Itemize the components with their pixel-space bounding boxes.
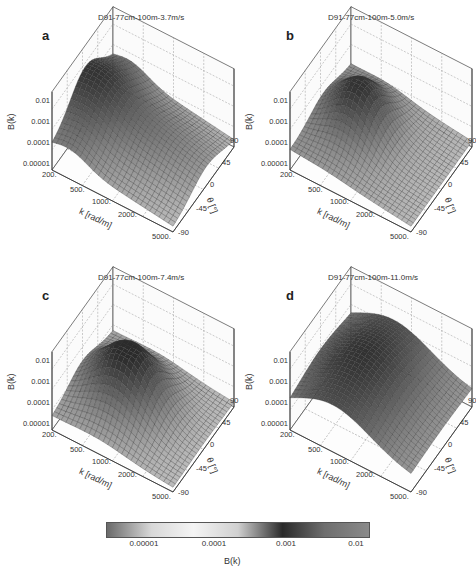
x-tick: 1000. (330, 457, 349, 466)
surface-plot (238, 0, 476, 260)
x-tick: 200. (280, 170, 295, 179)
y-tick: 45 (460, 418, 468, 427)
z-tick: 0.0001 (265, 138, 288, 147)
z-axis-label: B(k) (244, 374, 254, 391)
x-tick: 500. (70, 445, 85, 454)
x-tick: 2000. (118, 470, 137, 479)
z-tick: 0.001 (269, 117, 288, 126)
x-tick: 5000. (390, 232, 409, 241)
z-axis-label: B(k) (6, 114, 16, 131)
z-tick: 0.0001 (27, 398, 50, 407)
x-tick: 200. (42, 430, 57, 439)
x-tick: 500. (70, 185, 85, 194)
y-tick: 0 (448, 180, 452, 189)
z-tick: 0.001 (31, 117, 50, 126)
surface-plot (0, 260, 238, 520)
colorbar: 0.00001 0.0001 0.001 0.01 B(k) (106, 522, 372, 572)
z-tick: 0.001 (31, 377, 50, 386)
colorbar-label: B(k) (224, 556, 241, 566)
x-tick: 1000. (330, 197, 349, 206)
colorbar-tick: 0.0001 (202, 539, 226, 548)
x-tick: 200. (280, 430, 295, 439)
panel-label: d (286, 288, 294, 303)
y-tick: 0 (210, 440, 214, 449)
z-axis-label: B(k) (6, 374, 16, 391)
z-tick: 0.00001 (261, 419, 288, 428)
y-tick: 90 (468, 136, 476, 145)
y-tick: -90 (178, 228, 189, 237)
y-tick: 45 (222, 158, 230, 167)
panel-c: D91-77cm-100m-7.4m/sc0.010.0010.00010.00… (0, 260, 238, 520)
x-tick: 200. (42, 170, 57, 179)
x-tick: 1000. (92, 457, 111, 466)
y-tick: -45 (434, 464, 445, 473)
y-tick: 45 (222, 418, 230, 427)
panel-title: D91-77cm-100m-7.4m/s (98, 273, 184, 282)
colorbar-tick: 0.001 (276, 539, 296, 548)
x-tick: 500. (308, 185, 323, 194)
panel-label: c (42, 288, 49, 303)
colorbar-tick: 0.00001 (130, 539, 159, 548)
panel-label: a (42, 28, 49, 43)
colorbar-tick: 0.01 (348, 539, 364, 548)
z-tick: 0.00001 (23, 419, 50, 428)
x-tick: 2000. (356, 210, 375, 219)
surface-plot (0, 0, 238, 260)
y-tick: -90 (178, 488, 189, 497)
panel-d: D91-77cm-100m-11.0m/sd0.010.0010.00010.0… (238, 260, 476, 520)
z-tick: 0.0001 (27, 138, 50, 147)
z-tick: 0.001 (269, 377, 288, 386)
z-tick: 0.00001 (261, 159, 288, 168)
y-tick: 0 (448, 440, 452, 449)
x-tick: 5000. (390, 492, 409, 501)
x-tick: 2000. (356, 470, 375, 479)
x-tick: 5000. (152, 492, 171, 501)
x-tick: 500. (308, 445, 323, 454)
x-tick: 2000. (118, 210, 137, 219)
surface-plot (238, 260, 476, 520)
z-tick: 0.01 (35, 96, 50, 105)
panel-a: D91-77cm-100m-3.7m/sa0.010.0010.00010.00… (0, 0, 238, 260)
y-tick: -45 (196, 204, 207, 213)
z-tick: 0.01 (273, 96, 288, 105)
z-tick: 0.01 (35, 356, 50, 365)
z-tick: 0.01 (273, 356, 288, 365)
panel-title: D91-77cm-100m-5.0m/s (328, 13, 414, 22)
z-tick: 0.00001 (23, 159, 50, 168)
panel-label: b (286, 28, 294, 43)
panel-title: D91-77cm-100m-11.0m/s (328, 273, 418, 282)
x-tick: 1000. (92, 197, 111, 206)
panel-title: D91-77cm-100m-3.7m/s (98, 13, 184, 22)
y-tick: -90 (416, 228, 427, 237)
z-tick: 0.0001 (265, 398, 288, 407)
y-tick: -45 (196, 464, 207, 473)
panel-b: D91-77cm-100m-5.0m/sb0.010.0010.00010.00… (238, 0, 476, 260)
colorbar-gradient (106, 522, 370, 538)
y-tick: 90 (468, 396, 476, 405)
y-tick: -90 (416, 488, 427, 497)
y-tick: 0 (210, 180, 214, 189)
z-axis-label: B(k) (244, 114, 254, 131)
y-tick: -45 (434, 204, 445, 213)
y-tick: 45 (460, 158, 468, 167)
x-tick: 5000. (152, 232, 171, 241)
